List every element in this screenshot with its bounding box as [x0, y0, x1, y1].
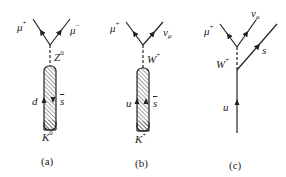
label-antiquark-s-a: s: [60, 96, 64, 107]
label-muon-plus-c: μ+: [204, 26, 213, 37]
caption-c: (c): [229, 160, 241, 171]
label-quark-s-c: s: [262, 45, 266, 56]
label-kaon-plus: K+: [135, 134, 146, 145]
label-muon-minus-a: μ−: [70, 25, 79, 36]
label-quark-u-b: u: [126, 98, 132, 109]
label-neutrino-c: νμ: [251, 8, 259, 19]
arrow-up-icon: [235, 99, 240, 105]
panel-b: [126, 22, 163, 131]
label-w-boson-b: W+: [147, 54, 160, 65]
panel-a: [33, 19, 70, 130]
label-quark-d: d: [32, 96, 38, 107]
label-z-boson: Z0: [54, 52, 64, 63]
label-neutrino-b: νμ: [163, 27, 171, 38]
label-muon-plus-b: μ+: [110, 23, 119, 34]
label-muon-plus-a: μ+: [17, 22, 26, 33]
label-quark-u-c: u: [223, 102, 229, 113]
label-antiquark-s-b: s: [153, 98, 157, 109]
caption-a: (a): [41, 156, 53, 167]
feynman-diagram-figure: μ+ μ− Z0 d s K0 (a) μ+ νμ W+ u s K+ (b) …: [0, 0, 286, 177]
panel-c: [220, 20, 277, 133]
s-quark-line: [237, 24, 277, 70]
label-kaon-zero: K0: [42, 132, 53, 143]
diagram-canvas: [0, 0, 286, 177]
caption-b: (b): [135, 158, 148, 169]
label-w-boson-c: W+: [216, 59, 229, 70]
